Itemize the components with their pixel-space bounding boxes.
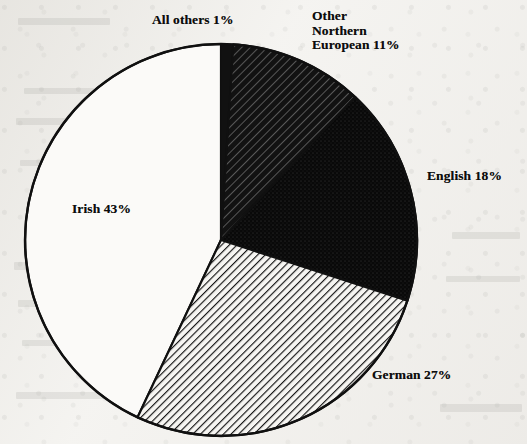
pie-label-german: German 27%: [372, 368, 451, 383]
pie-label-all-others: All others 1%: [152, 13, 234, 28]
pie-label-english: English 18%: [427, 169, 502, 184]
pie-label-irish: Irish 43%: [72, 202, 131, 217]
pie-label-other-northern-european: Other Northern European 11%: [312, 9, 400, 53]
scanned-page: All others 1% Other Northern European 11…: [0, 0, 527, 444]
